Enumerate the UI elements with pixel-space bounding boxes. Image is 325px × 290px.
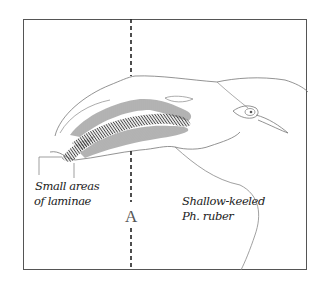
leader-line-left [39,157,62,175]
species-label-line2: Ph. ruber [182,209,233,224]
species-label-line1: Shallow-keeled [182,194,265,209]
laminae-label-line1: Small areas [35,179,99,194]
eye-outline [233,106,258,118]
laminae-label-line2: of laminae [34,194,91,209]
bill-illustration [0,0,325,290]
eye-pupil [250,111,253,114]
eye-stripe [256,115,288,133]
flamingo-bill-diagram: Small areas of laminae Shallow-keeled Ph… [0,0,325,290]
section-label: A [125,208,137,225]
nostril [165,96,193,102]
face-line [217,82,248,108]
